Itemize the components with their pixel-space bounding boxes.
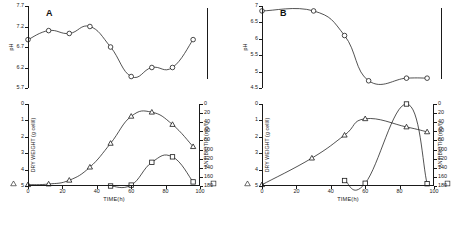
axis-tick-label: 0 (255, 101, 258, 106)
axis-tick (25, 137, 28, 138)
axis-tick (434, 131, 437, 132)
legend-square-marker-a (210, 180, 217, 187)
axis-tick (25, 170, 28, 171)
axis-tick-label: 5 (255, 183, 258, 188)
growth-chart-a: DRY WEIGHT (g cell/l) ANTIBIOTIC (mg/l) … (28, 104, 200, 186)
axis-tick (25, 6, 28, 7)
axis-tick-label: 60 (362, 189, 368, 194)
axis-tick (200, 159, 203, 160)
axis-tick-label: 4 (255, 167, 258, 172)
axis-tick-label: 60 (204, 129, 210, 134)
axis-tick-label: 4 (21, 167, 24, 172)
gr-a-x-axis-label: TIME(h) (103, 197, 125, 202)
legend-triangle-marker-a (10, 180, 17, 187)
axis-tick (25, 47, 28, 48)
panel-b: B pH 76.565.554.5 DRY WEIGHT (g cell/l) … (234, 0, 468, 230)
axis-tick-label: 100 (430, 189, 439, 194)
axis-tick (200, 122, 203, 123)
ph-b-right-spine (441, 8, 442, 79)
ph-b-plot-area (262, 6, 434, 88)
axis-tick (200, 104, 203, 105)
gr-b-x-axis (262, 185, 434, 186)
axis-tick (200, 150, 203, 151)
axis-tick-label: 0 (438, 101, 441, 106)
axis-tick-label: 120 (204, 156, 213, 161)
axis-tick-label: 40 (328, 189, 334, 194)
axis-tick-label: 5 (255, 69, 258, 74)
axis-tick-label: 140 (438, 165, 447, 170)
axis-tick-label: 5.5 (251, 52, 259, 57)
gr-a-right-spine (199, 104, 200, 186)
ph-b-y-axis (262, 6, 263, 88)
axis-tick-label: 7.7 (17, 3, 25, 8)
figure-root: A pH 7.77.26.76.25.7 DRY WEIGHT (g cell/… (0, 0, 468, 230)
axis-tick (259, 72, 262, 73)
axis-tick-label: 0 (261, 189, 264, 194)
axis-tick-label: 3 (21, 150, 24, 155)
axis-tick (200, 131, 203, 132)
ph-b-y-axis-label: pH (243, 43, 248, 50)
axis-tick-label: 7.2 (17, 24, 25, 29)
axis-tick (434, 104, 437, 105)
axis-tick-label: 0 (204, 101, 207, 106)
axis-tick-label: 6.2 (17, 65, 25, 70)
axis-tick (434, 140, 437, 141)
gr-a-y-axis-label: DRY WEIGHT (g cell/l) (31, 118, 36, 173)
axis-tick (259, 104, 262, 105)
axis-tick (25, 153, 28, 154)
axis-tick (259, 88, 262, 89)
axis-tick-label: 60 (128, 189, 134, 194)
axis-tick-label: 5 (21, 183, 24, 188)
gr-a-plot-area (28, 104, 200, 186)
gr-b-y-axis-label: DRY WEIGHT (g cell/l) (265, 118, 270, 173)
gr-a-x-axis (28, 185, 200, 186)
axis-tick-label: 40 (204, 120, 210, 125)
panel-a: A pH 7.77.26.76.25.7 DRY WEIGHT (g cell/… (0, 0, 234, 230)
axis-tick-label: 6 (255, 36, 258, 41)
axis-tick-label: 100 (438, 147, 447, 152)
ph-a-plot-area (28, 6, 200, 88)
axis-tick (25, 88, 28, 89)
axis-tick (259, 55, 262, 56)
ph-a-y-axis (28, 6, 29, 88)
axis-tick (200, 113, 203, 114)
axis-tick-label: 80 (204, 138, 210, 143)
axis-tick (259, 153, 262, 154)
axis-tick (434, 168, 437, 169)
axis-tick-label: 1 (21, 118, 24, 123)
axis-tick-label: 20 (293, 189, 299, 194)
axis-tick-label: 1 (255, 118, 258, 123)
axis-tick (434, 150, 437, 151)
axis-tick (434, 159, 437, 160)
axis-tick-label: 6.7 (17, 44, 25, 49)
axis-tick-label: 80 (438, 138, 444, 143)
axis-tick (200, 177, 203, 178)
axis-tick-label: 2 (21, 134, 24, 139)
legend-square-marker-b (444, 180, 451, 187)
axis-tick-label: 100 (196, 189, 205, 194)
axis-tick-label: 20 (204, 110, 210, 115)
axis-tick-label: 0 (27, 189, 30, 194)
axis-tick-label: 80 (397, 189, 403, 194)
axis-tick (25, 120, 28, 121)
axis-tick-label: 120 (438, 156, 447, 161)
axis-tick-label: 40 (438, 120, 444, 125)
gr-b-plot-area (262, 104, 434, 186)
growth-chart-b: DRY WEIGHT (g cell/l) ANTIBIOTIC (mg/l) … (262, 104, 434, 186)
axis-tick-label: 20 (59, 189, 65, 194)
axis-tick (200, 168, 203, 169)
gr-b-right-spine (433, 104, 434, 186)
axis-tick-label: 3 (255, 150, 258, 155)
axis-tick (434, 122, 437, 123)
ph-a-y-axis-label: pH (9, 43, 14, 50)
axis-tick (25, 27, 28, 28)
gr-b-x-axis-label: TIME(h) (337, 197, 359, 202)
axis-tick (25, 104, 28, 105)
ph-chart-a: pH 7.77.26.76.25.7 (28, 6, 200, 88)
axis-tick-label: 20 (438, 110, 444, 115)
axis-tick-label: 7 (255, 3, 258, 8)
axis-tick (259, 137, 262, 138)
axis-tick-label: 0 (21, 101, 24, 106)
legend-triangle-marker-b (244, 180, 251, 187)
axis-tick-label: 140 (204, 165, 213, 170)
